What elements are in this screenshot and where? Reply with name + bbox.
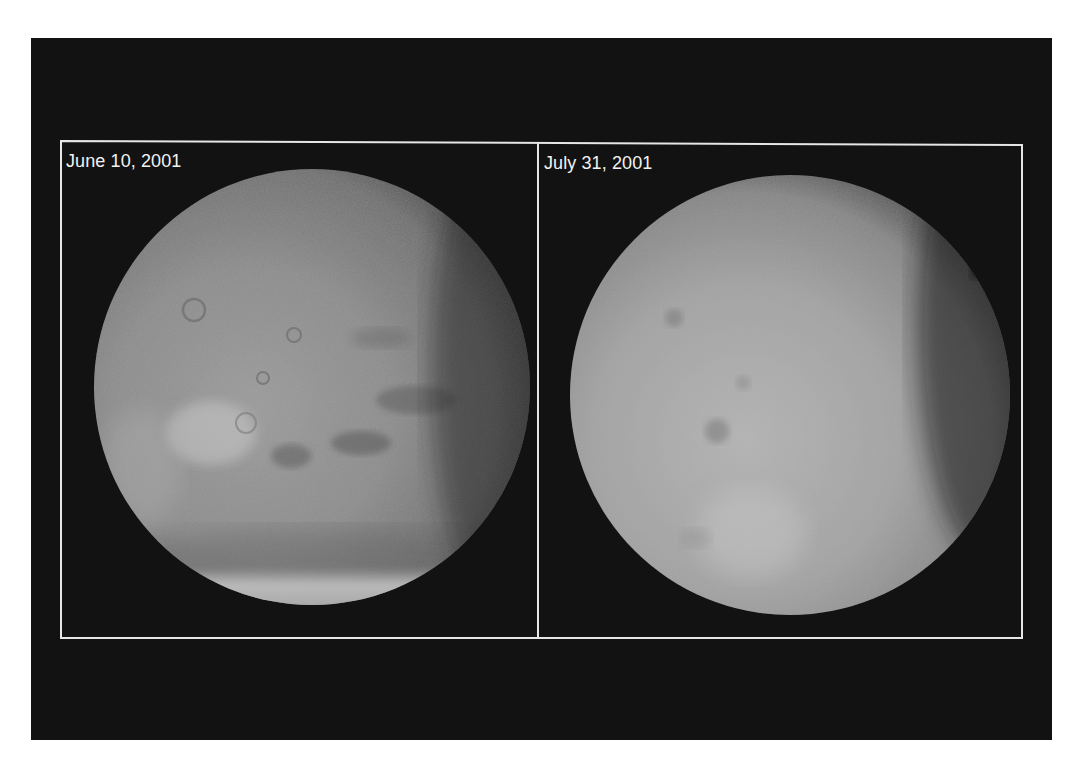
faint-dark-spot bbox=[705, 419, 729, 443]
faint-dark-spot bbox=[736, 376, 750, 390]
faint-dark-spot bbox=[665, 309, 683, 327]
bright-region-left-limb bbox=[101, 408, 181, 528]
faint-dark-spot bbox=[681, 528, 711, 548]
south-polar-cap bbox=[141, 568, 451, 618]
panel-label-july: July 31, 2001 bbox=[544, 154, 652, 172]
figure-canvas bbox=[31, 38, 1052, 740]
terminator-shadow bbox=[431, 128, 571, 608]
dark-marking bbox=[331, 431, 391, 455]
dark-limb-spot bbox=[970, 263, 986, 279]
mars-image-june bbox=[94, 128, 571, 618]
panel-label-june: June 10, 2001 bbox=[66, 152, 181, 170]
terminator-shadow bbox=[916, 98, 1052, 558]
bright-region bbox=[696, 488, 806, 578]
figure-plate: June 10, 2001 July 31, 2001 bbox=[31, 38, 1052, 740]
dark-marking bbox=[271, 444, 311, 468]
dark-marking bbox=[351, 328, 411, 348]
mars-image-july bbox=[570, 98, 1052, 615]
